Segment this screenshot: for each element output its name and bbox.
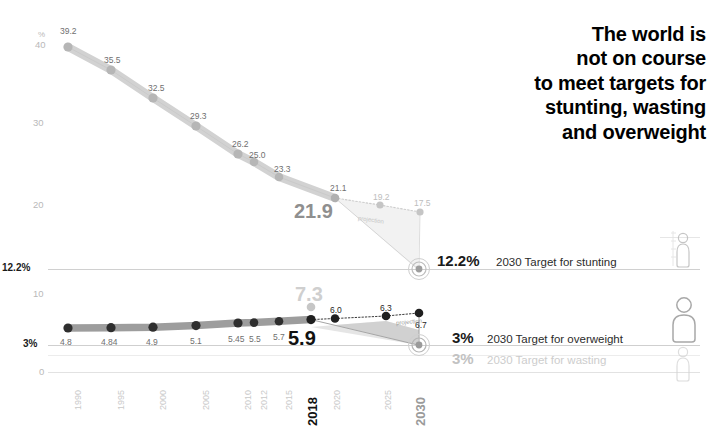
y-tick-10: 10	[33, 288, 44, 299]
overweight-label-2025: 6.3	[380, 303, 392, 313]
stunting-2030-target-marker	[409, 259, 430, 280]
overweight-line	[68, 320, 311, 328]
y-tick-target-stunting: 12.2%	[2, 262, 30, 273]
y-tick-30: 30	[33, 117, 44, 128]
x-tick-2030: 2030	[413, 397, 428, 426]
stunting-label-2000: 32.5	[148, 83, 165, 93]
x-tick-2018: 2018	[305, 397, 320, 426]
x-tick-2010: 2010	[243, 390, 253, 410]
x-tick-2025: 2025	[383, 390, 393, 410]
person-thin-icon-stunting	[671, 231, 689, 267]
x-tick-2020: 2020	[332, 390, 342, 410]
person-thin-icon-wasting	[677, 347, 689, 381]
headline-line-4: stunting, wasting	[456, 95, 706, 119]
stunting-label-1990: 39.2	[60, 26, 77, 36]
stunting-label-2015: 23.3	[274, 164, 291, 174]
y-axis-unit: %	[38, 30, 45, 39]
x-tick-1995: 1995	[116, 390, 126, 410]
headline-line-1: The world is	[456, 22, 706, 46]
y-tick-20: 20	[33, 199, 44, 210]
x-tick-1990: 1990	[73, 390, 83, 410]
headline-line-2: not on course	[456, 46, 706, 70]
stunting-label-2025: 19.2	[373, 192, 390, 202]
y-tick-target-overweight: 3%	[23, 338, 37, 349]
overweight-label-2010: 5.45	[228, 334, 245, 344]
overweight-label-2020: 6.0	[330, 305, 342, 315]
target-value-overweight: 3%	[452, 329, 474, 346]
target-value-stunting: 12.2%	[437, 252, 480, 269]
overweight-2030-target-marker	[409, 335, 430, 356]
y-tick-0: 0	[39, 366, 44, 377]
stunting-data-points	[63, 42, 423, 215]
overweight-label-2015: 5.7	[273, 332, 285, 342]
stunting-label-2005: 29.3	[190, 111, 207, 121]
stunting-label-1995: 35.5	[104, 55, 121, 65]
overweight-label-2000: 4.9	[146, 337, 158, 347]
overweight-label-1990: 4.8	[60, 337, 72, 347]
callout-stunting-2018: 21.9	[294, 200, 333, 223]
person-round-icon-overweight	[673, 298, 695, 342]
stunting-label-2012: 25.0	[249, 150, 266, 160]
target-value-wasting: 3%	[452, 350, 474, 367]
overweight-label-2005: 5.1	[190, 336, 202, 346]
page-title: The world is not on course to meet targe…	[456, 22, 706, 144]
x-tick-2005: 2005	[201, 390, 211, 410]
chart-canvas: The world is not on course to meet targe…	[0, 0, 724, 438]
target-text-overweight: 2030 Target for overweight	[487, 333, 623, 345]
x-tick-2012: 2012	[259, 390, 269, 410]
x-tick-2000: 2000	[158, 390, 168, 410]
headline-line-5: and overweight	[456, 120, 706, 144]
overweight-label-1995: 4.84	[101, 337, 118, 347]
callout-overweight-2018: 5.9	[288, 327, 316, 350]
stunting-label-2010: 26.2	[232, 139, 249, 149]
target-text-wasting: 2030 Target for wasting	[487, 354, 606, 366]
stunting-label-2030: 17.5	[414, 198, 431, 208]
overweight-label-2012: 5.5	[249, 334, 261, 344]
headline-line-3: to meet targets for	[456, 71, 706, 95]
y-tick-40: 40	[35, 39, 46, 50]
callout-wasting-2018: 7.3	[295, 283, 323, 306]
stunting-label-2018: 21.1	[330, 183, 347, 193]
x-tick-2015: 2015	[284, 390, 294, 410]
target-text-stunting: 2030 Target for stunting	[496, 256, 617, 268]
